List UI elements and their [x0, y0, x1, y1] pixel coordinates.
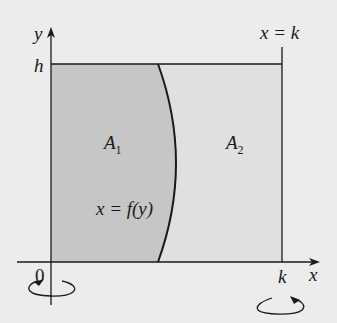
- k-label: k: [278, 267, 286, 286]
- region-a1-subscript: 1: [116, 143, 122, 157]
- diagram-canvas: [0, 0, 337, 323]
- region-a2-letter: A: [226, 132, 238, 153]
- y-axis-label: y: [34, 24, 42, 43]
- region-a1-letter: A: [104, 132, 116, 153]
- line-x-equals-k-label: x = k: [260, 23, 299, 42]
- rotation-arrowhead-right-icon: [290, 296, 300, 304]
- curve-label: x = f(y): [96, 199, 153, 218]
- diagram: y x h 0 k x = k A1 A2 x = f(y): [0, 0, 337, 323]
- region-a1: [51, 64, 176, 262]
- x-axis-label: x: [309, 265, 317, 284]
- region-a2-subscript: 2: [238, 143, 244, 157]
- origin-label: 0: [35, 266, 45, 285]
- h-label: h: [34, 56, 44, 75]
- region-a1-label: A1: [104, 133, 122, 152]
- region-a2-label: A2: [226, 133, 244, 152]
